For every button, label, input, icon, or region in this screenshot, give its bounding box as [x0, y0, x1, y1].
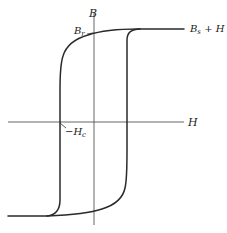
b-axis-label: B	[88, 7, 97, 20]
ascending-branch	[47, 29, 140, 216]
h-axis-label: H	[187, 116, 198, 129]
saturation-label: Bs + H	[189, 23, 225, 36]
remanence-label: Br	[73, 25, 85, 38]
coercivity-label: −Hc	[65, 126, 86, 139]
descending-branch	[8, 29, 184, 216]
hysteresis-diagram: B Br Bs + H H −Hc	[0, 0, 227, 233]
